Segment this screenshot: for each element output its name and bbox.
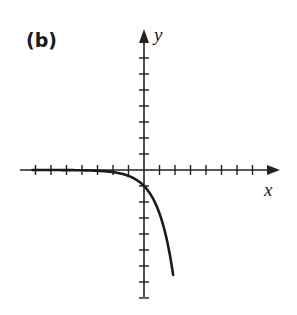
x-axis-label: x [263,179,273,200]
x-axis-arrow-icon [267,165,280,175]
axes [20,29,280,298]
y-axis-arrow-icon [139,29,149,43]
y-axis-label: y [152,24,163,45]
function-curve [32,170,173,275]
chart-plot: x y [0,0,297,315]
